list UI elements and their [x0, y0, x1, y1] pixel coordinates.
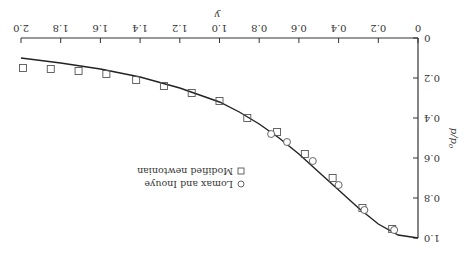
legend-square-icon: [238, 168, 244, 174]
x-tick-label: 1.0: [212, 23, 228, 34]
circle-marker: [268, 131, 275, 138]
y-tick-label: 0.6: [424, 153, 440, 164]
square-marker: [19, 65, 26, 72]
x-tick-label: 2.0: [13, 23, 29, 34]
x-tick-label: 1.2: [172, 23, 188, 34]
circle-marker: [391, 227, 398, 234]
x-tick-label: 0.6: [291, 23, 307, 34]
y-tick-label: 0.4: [424, 113, 440, 124]
circle-marker: [335, 182, 342, 189]
chart-svg: 00.20.40.60.81.01.21.41.61.82.000.20.40.…: [0, 0, 467, 256]
circle-marker: [283, 139, 290, 146]
square-marker: [103, 71, 110, 78]
x-tick-label: 0.8: [251, 23, 267, 34]
square-marker: [75, 68, 82, 75]
chart-container: 00.20.40.60.81.01.21.41.61.82.000.20.40.…: [0, 0, 467, 256]
x-tick-label: 1.8: [53, 23, 69, 34]
legend-label-lomax: Lomax and Inouye: [144, 179, 233, 190]
y-tick-label: 1.0: [424, 233, 440, 244]
y-tick-label: 0.8: [424, 193, 440, 204]
square-marker: [47, 66, 54, 73]
x-tick-label: 1.4: [132, 23, 148, 34]
y-axis-label: p/po: [447, 128, 460, 148]
circle-marker: [309, 158, 316, 165]
legend-circle-icon: [238, 181, 244, 187]
x-tick-label: 0: [415, 23, 421, 34]
square-marker: [133, 77, 140, 84]
x-tick-label: 1.6: [92, 23, 108, 34]
square-marker: [329, 175, 336, 182]
x-axis-label: y: [214, 10, 221, 21]
x-tick-label: 0.4: [331, 23, 347, 34]
x-tick-label: 0.2: [370, 23, 386, 34]
y-tick-label: 0.2: [424, 73, 440, 84]
fit-curve: [21, 58, 418, 238]
legend-label-newtonian: Modified newtonian: [137, 166, 233, 177]
circle-marker: [361, 207, 368, 214]
y-tick-label: 0: [424, 33, 430, 44]
